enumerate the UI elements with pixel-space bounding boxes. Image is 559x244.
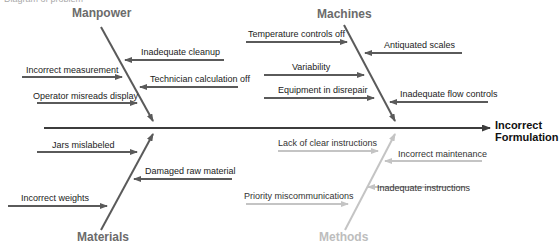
cause-label: Inadequate flow controls — [400, 89, 498, 99]
category-materials: Materials — [77, 230, 129, 244]
cause-label: Antiquated scales — [384, 40, 455, 50]
cause-label: Damaged raw material — [145, 166, 236, 176]
cause-label: Temperature controls off — [248, 29, 345, 39]
cause-label: Incorrect maintenance — [398, 149, 487, 159]
cause-label: Priority miscommunications — [244, 191, 354, 201]
category-machines: Machines — [317, 7, 372, 21]
cause-label: Inadequate cleanup — [141, 47, 220, 57]
effect-line-1: Incorrect — [495, 119, 559, 131]
cause-label: Incorrect weights — [21, 193, 89, 203]
cause-label: Inadequate instructions — [377, 183, 470, 193]
cause-label: Technician calculation off — [150, 74, 250, 84]
category-manpower: Manpower — [72, 6, 131, 20]
cause-label: Operator misreads display — [33, 91, 138, 101]
effect-line-2: Formulation — [495, 131, 559, 143]
cause-label: Incorrect measurement — [26, 65, 119, 75]
cause-label: Equipment in disrepair — [278, 85, 368, 95]
effect-label: Incorrect Formulation — [495, 119, 559, 143]
cause-label: Jars mislabeled — [52, 140, 115, 150]
cause-label: Variability — [292, 62, 330, 72]
category-methods: Methods — [319, 230, 368, 244]
methods-bone — [345, 134, 395, 230]
cause-label: Lack of clear instructions — [278, 138, 377, 148]
